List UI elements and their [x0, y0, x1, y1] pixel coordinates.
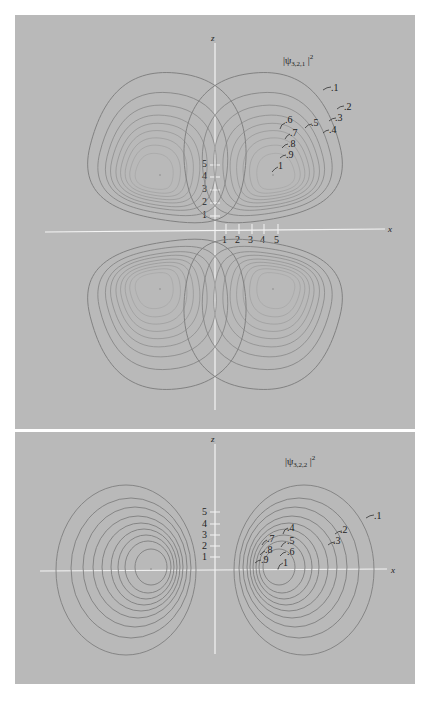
contour-label-0.4: .4 [329, 124, 337, 135]
x-ticks: 1 2 3 4 5 [222, 224, 279, 245]
contour-label-0.5: .5 [311, 117, 319, 128]
x-axis-label: x [387, 224, 392, 234]
plot-title: |ψ3,2,1 |2 [283, 53, 314, 68]
x-tick-4: 4 [260, 234, 265, 245]
z-tick-1: 1 [202, 209, 207, 220]
contour-label-0.7: .7 [290, 127, 298, 138]
z-tick-4: 4 [202, 518, 207, 529]
z-ticks: 1 2 3 4 5 [202, 158, 220, 220]
lobe-lower-right [170, 230, 350, 402]
contour-label-1: 1 [283, 557, 288, 568]
contour-label-0.7: .7 [267, 533, 275, 544]
z-axis-label: z [210, 33, 215, 43]
contour-plot-psi-321: z x 1 2 3 4 5 1 2 3 4 5 |ψ3,2,1 |2 [15, 15, 415, 429]
contour-plot-svg: z x 1 2 3 4 5 1 2 3 4 5 |ψ3,2,1 |2 [15, 15, 415, 429]
x-axis-label: x [390, 565, 395, 575]
z-axis-label: z [210, 434, 215, 444]
contour-label-0.2: .2 [340, 524, 348, 535]
contour-label-0.9: .9 [261, 554, 269, 565]
contour-label-0.4: .4 [287, 522, 295, 533]
z-tick-2: 2 [202, 540, 207, 551]
lobe-upper-left [79, 60, 259, 232]
contour-label-0.2: .2 [344, 101, 352, 112]
contour-label-0.6: .6 [287, 546, 295, 557]
contour-label-0.5: .5 [287, 535, 295, 546]
contour-label-0.1: .1 [331, 82, 339, 93]
z-tick-2: 2 [202, 196, 207, 207]
contour-label-0.9: .9 [286, 149, 294, 160]
z-tick-1: 1 [202, 551, 207, 562]
contour-plot-svg: z x 1 2 3 4 5 |ψ3,2,2 |2 [15, 432, 415, 684]
contour-label-0.1: .1 [374, 510, 382, 521]
x-axis [40, 569, 387, 571]
contour-label-0.3: .3 [335, 112, 343, 123]
plot-title: |ψ3,2,2 |2 [285, 454, 316, 469]
z-ticks: 1 2 3 4 5 [202, 506, 220, 562]
contour-label-0.8: .8 [288, 138, 296, 149]
contour-label-0.6: .6 [285, 114, 293, 125]
lobe-lower-left [79, 230, 259, 402]
z-tick-3: 3 [202, 529, 207, 540]
lobe-upper-right [170, 60, 350, 232]
contour-plot-psi-322: z x 1 2 3 4 5 |ψ3,2,2 |2 [15, 432, 415, 684]
contour-label-0.3: .3 [333, 535, 341, 546]
contour-label-1: 1 [278, 160, 283, 171]
z-tick-5: 5 [202, 506, 207, 517]
